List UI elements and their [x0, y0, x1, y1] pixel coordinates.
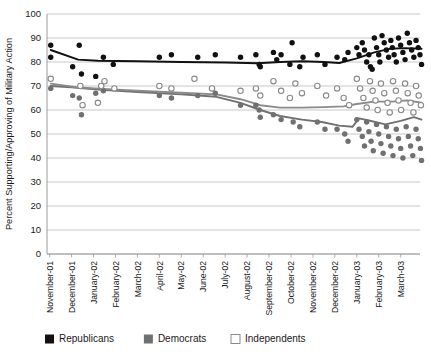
- data-point-independents: [408, 100, 413, 105]
- legend-label-democrats: Democrats: [158, 333, 206, 344]
- data-point-republicans: [271, 50, 276, 55]
- data-point-democrats: [342, 131, 347, 136]
- data-point-republicans: [287, 62, 292, 67]
- data-point-republicans: [48, 55, 53, 60]
- data-point-democrats: [416, 136, 421, 141]
- data-point-republicans: [405, 31, 410, 36]
- data-point-republicans: [394, 59, 399, 64]
- data-point-republicans: [322, 62, 327, 67]
- data-point-independents: [405, 91, 410, 96]
- data-point-independents: [382, 91, 387, 96]
- y-axis-title: Percent Supporting/Approving of Military…: [4, 38, 14, 230]
- data-point-independents: [398, 107, 403, 112]
- legend-swatch-republicans: [45, 335, 54, 344]
- data-point-independents: [209, 86, 214, 91]
- y-tick-label: 30: [30, 176, 41, 187]
- data-point-democrats: [400, 155, 405, 160]
- data-point-democrats: [364, 119, 369, 124]
- data-point-democrats: [418, 146, 423, 151]
- x-axis-tick-labels: November-01December-01January-02February…: [45, 261, 406, 316]
- data-point-democrats: [238, 103, 243, 108]
- data-point-independents: [364, 105, 369, 110]
- legend-swatch-democrats: [144, 335, 153, 344]
- data-point-independents: [387, 110, 392, 115]
- data-point-republicans: [101, 55, 106, 60]
- x-axis-tick-marks: [50, 254, 401, 258]
- data-point-republicans: [417, 52, 422, 57]
- x-tick-label: July-02: [220, 261, 230, 289]
- legend-label-republicans: Republicans: [59, 333, 114, 344]
- data-point-independents: [323, 93, 328, 98]
- data-point-democrats: [388, 143, 393, 148]
- data-point-independents: [370, 88, 375, 93]
- data-point-independents: [169, 86, 174, 91]
- data-point-republicans: [391, 52, 396, 57]
- data-point-democrats: [386, 134, 391, 139]
- x-tick-label: February-03: [374, 261, 384, 308]
- data-point-democrats: [70, 93, 75, 98]
- data-point-republicans: [369, 67, 374, 72]
- data-point-democrats: [297, 124, 302, 129]
- data-point-independents: [95, 100, 100, 105]
- x-tick-label: October-02: [286, 261, 296, 304]
- data-point-democrats: [93, 91, 98, 96]
- data-point-republicans: [360, 40, 365, 45]
- data-point-democrats: [157, 93, 162, 98]
- data-point-independents: [411, 110, 416, 115]
- data-point-democrats: [278, 117, 283, 122]
- data-point-independents: [102, 79, 107, 84]
- y-tick-label: 70: [30, 80, 41, 91]
- data-point-independents: [396, 98, 401, 103]
- data-point-democrats: [258, 115, 263, 120]
- data-point-republicans: [409, 47, 414, 52]
- data-point-republicans: [79, 71, 84, 76]
- x-tick-label: December-01: [67, 261, 77, 313]
- data-point-independents: [385, 100, 390, 105]
- x-tick-label: May-02: [176, 261, 186, 290]
- data-point-republicans: [77, 43, 82, 48]
- y-tick-label: 60: [30, 104, 41, 115]
- data-point-republicans: [195, 55, 200, 60]
- chart-canvas: 0102030405060708090100 Percent Supportin…: [0, 0, 431, 355]
- data-point-independents: [402, 81, 407, 86]
- data-point-democrats: [398, 146, 403, 151]
- data-point-democrats: [419, 158, 424, 163]
- data-point-republicans: [364, 59, 369, 64]
- data-point-independents: [278, 88, 283, 93]
- data-point-republicans: [390, 45, 395, 50]
- y-axis-title-group: Percent Supporting/Approving of Military…: [4, 38, 14, 230]
- x-tick-label: September-02: [264, 261, 274, 316]
- data-point-independents: [334, 86, 339, 91]
- data-point-republicans: [342, 57, 347, 62]
- trendline-independents: [51, 84, 422, 108]
- data-point-democrats: [410, 153, 415, 158]
- data-point-republicans: [300, 55, 305, 60]
- data-point-republicans: [274, 57, 279, 62]
- data-point-independents: [375, 107, 380, 112]
- data-point-republicans: [111, 62, 116, 67]
- data-point-republicans: [48, 43, 53, 48]
- y-tick-label: 90: [30, 32, 41, 43]
- x-tick-label: December-02: [330, 261, 340, 313]
- x-tick-label: June-02: [198, 261, 208, 292]
- data-point-republicans: [297, 64, 302, 69]
- data-point-democrats: [169, 95, 174, 100]
- data-point-independents: [258, 93, 263, 98]
- data-point-democrats: [360, 134, 365, 139]
- data-point-independents: [238, 88, 243, 93]
- data-point-democrats: [413, 127, 418, 132]
- data-point-democrats: [256, 107, 261, 112]
- data-point-republicans: [315, 52, 320, 57]
- data-point-democrats: [334, 127, 339, 132]
- data-point-independents: [367, 79, 372, 84]
- x-tick-label: November-02: [308, 261, 318, 313]
- data-point-independents: [413, 83, 418, 88]
- data-point-republicans: [419, 62, 424, 67]
- data-point-republicans: [402, 57, 407, 62]
- y-tick-label: 10: [30, 224, 41, 235]
- data-point-republicans: [345, 50, 350, 55]
- y-tick-label: 40: [30, 152, 41, 163]
- data-point-independents: [378, 81, 383, 86]
- y-tick-label: 50: [30, 128, 41, 139]
- data-point-republicans: [386, 55, 391, 60]
